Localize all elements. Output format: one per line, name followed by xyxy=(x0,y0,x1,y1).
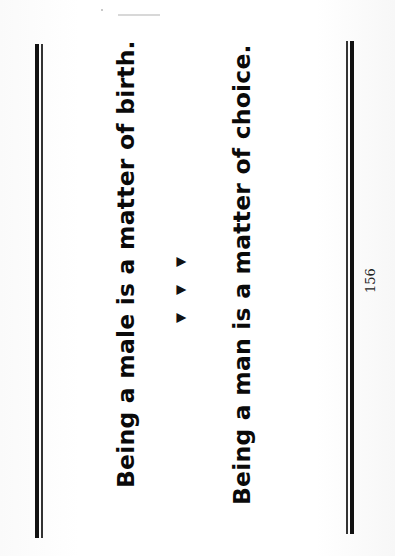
border-rule-left-thick xyxy=(35,44,39,538)
statement-male-birth: Being a male is a matter of birth. xyxy=(111,88,141,488)
triangle-bullet-icon: ▲ xyxy=(176,313,188,325)
triangle-bullet-icon: ▲ xyxy=(176,285,188,297)
scan-artifact xyxy=(101,9,103,11)
border-rule-left-thin xyxy=(41,44,43,538)
scan-artifact xyxy=(118,14,160,16)
border-rule-right-thin xyxy=(346,41,348,534)
statement-man-choice: Being a man is a matter of choice. xyxy=(227,85,258,505)
triangle-bullet-icon: ▲ xyxy=(176,257,188,269)
document-page: Being a male is a matter of birth. ▲ ▲ ▲… xyxy=(0,0,395,556)
page-number: 156 xyxy=(364,268,378,293)
border-rule-right-thick xyxy=(350,41,354,534)
triangle-separator: ▲ ▲ ▲ xyxy=(173,253,193,333)
